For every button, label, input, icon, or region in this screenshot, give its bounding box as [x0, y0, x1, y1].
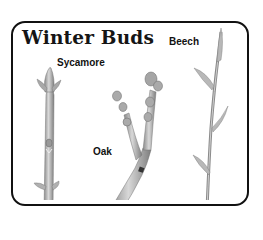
oak-twig-icon [110, 72, 163, 210]
label-beech: Beech [169, 36, 199, 47]
sycamore-twig-icon [34, 67, 61, 210]
beech-twig-icon [193, 28, 228, 210]
label-oak: Oak [93, 146, 112, 157]
page-title: Winter Buds [22, 27, 154, 48]
label-sycamore: Sycamore [57, 57, 105, 68]
